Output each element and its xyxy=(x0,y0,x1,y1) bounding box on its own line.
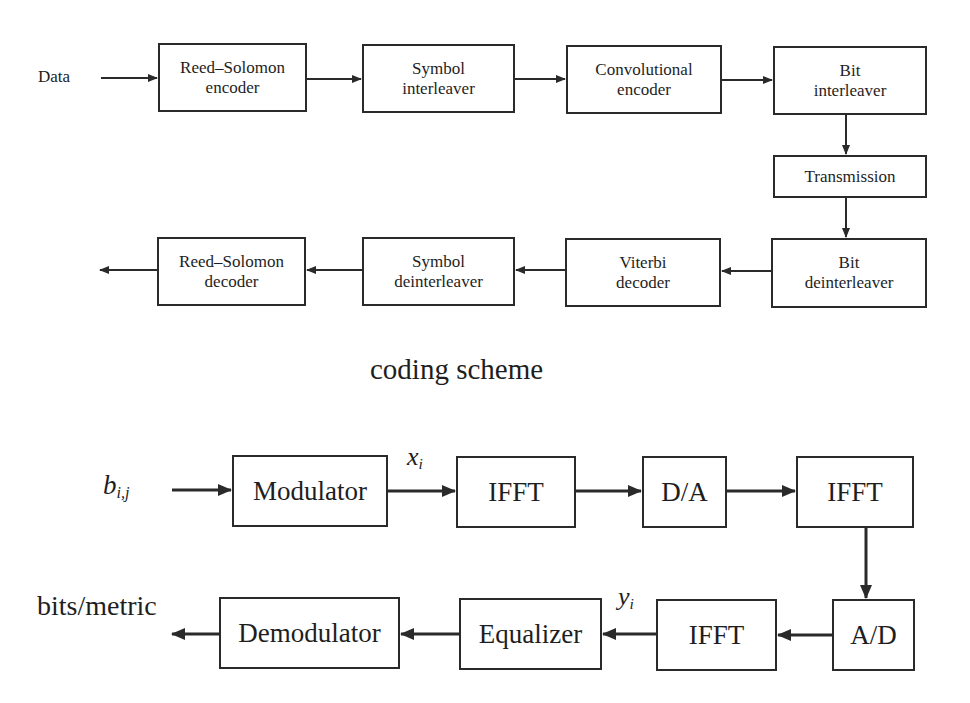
block-diagram: Data Reed–Solomon encoder Symbol interle… xyxy=(0,0,970,703)
connector-arrows xyxy=(0,0,970,703)
